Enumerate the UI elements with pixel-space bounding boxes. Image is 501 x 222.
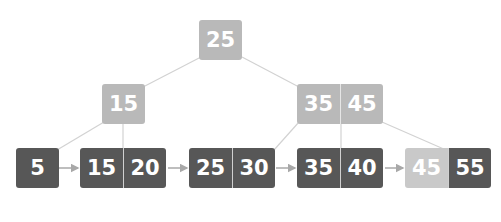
leaf-key: 40: [340, 148, 383, 188]
leaf-node-5: 45 55: [405, 148, 491, 188]
leaf-node-4: 35 40: [297, 148, 383, 188]
b-plus-tree-diagram: 25 15 35 45 5 15 20 25 30 35 40 45 55: [0, 0, 501, 222]
internal-key: 15: [102, 84, 145, 124]
leaf-key: 20: [123, 148, 166, 188]
leaf-key: 55: [448, 148, 491, 188]
edge-45-to-leaf-45-55: [382, 122, 446, 150]
leaf-node-2: 15 20: [80, 148, 166, 188]
leaf-node-3: 25 30: [189, 148, 275, 188]
edge-root-to-internal-15: [143, 57, 201, 87]
leaf-key: 35: [297, 148, 340, 188]
internal-key: 35: [297, 84, 340, 124]
tree-edges: [0, 0, 501, 222]
root-node: 25: [199, 20, 242, 60]
internal-node-left: 15: [102, 84, 145, 124]
edge-35-to-leaf-25-30: [274, 122, 299, 150]
leaf-key-highlighted: 45: [405, 148, 448, 188]
leaf-key: 25: [189, 148, 232, 188]
edge-root-to-internal-35-45: [242, 57, 299, 87]
internal-node-right: 35 45: [297, 84, 383, 124]
root-key: 25: [199, 20, 242, 60]
leaf-key: 30: [232, 148, 275, 188]
internal-key: 45: [340, 84, 383, 124]
leaf-node-1: 5: [16, 148, 59, 188]
leaf-key: 5: [16, 148, 59, 188]
leaf-key: 15: [80, 148, 123, 188]
edge-15-to-leaf-5: [57, 122, 104, 150]
